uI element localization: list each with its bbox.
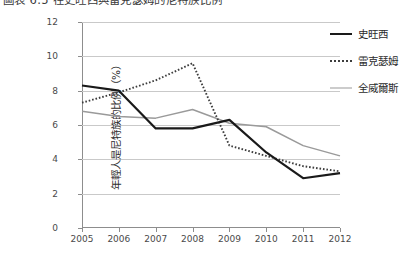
legend-item[interactable]: 雷克瑟姆 [330,53,398,68]
legend-item[interactable]: 全威爾斯 [330,80,398,95]
y-axis-tick-label: 0 [18,223,58,233]
neet-rate-line-chart: 年輕人是尼特族的比例（%） 024681012 2005200620072008… [0,0,404,255]
x-axis-tick-mark [340,228,341,232]
legend-item-label: 史旺西 [358,26,388,41]
x-axis-tick-mark [303,228,304,232]
y-axis-tick-mark [78,159,82,160]
y-axis-tick-mark [78,194,82,195]
x-axis-tick-mark [266,228,267,232]
y-axis-tick-mark [78,125,82,126]
legend-item-label: 雷克瑟姆 [358,53,398,68]
solid-gray-line-icon [330,84,352,92]
solid-black-line-icon [330,30,352,38]
legend-item-label: 全威爾斯 [358,80,398,95]
y-axis-tick-label: 6 [18,120,58,130]
dotted-black-line-icon [330,57,352,65]
x-axis-tick-mark [229,228,230,232]
series-line-全威爾斯 [82,110,340,156]
legend-item[interactable]: 史旺西 [330,26,398,41]
y-axis-tick-mark [78,56,82,57]
series-line-雷克瑟姆 [82,63,340,171]
y-axis-tick-mark [78,91,82,92]
series-lines [82,22,340,228]
x-axis-tick-label: 2012 [318,234,362,244]
y-axis-tick-label: 10 [18,51,58,61]
x-axis-tick-mark [119,228,120,232]
y-axis-tick-mark [78,22,82,23]
y-axis-tick-label: 2 [18,189,58,199]
x-axis-tick-mark [82,228,83,232]
chart-legend: 史旺西雷克瑟姆全威爾斯 [330,26,398,95]
y-axis-tick-label: 8 [18,86,58,96]
x-axis-tick-mark [156,228,157,232]
x-axis-tick-mark [193,228,194,232]
y-axis-tick-label: 4 [18,154,58,164]
plot-area: 年輕人是尼特族的比例（%） [82,22,340,228]
y-axis-tick-label: 12 [18,17,58,27]
series-line-史旺西 [82,86,340,179]
